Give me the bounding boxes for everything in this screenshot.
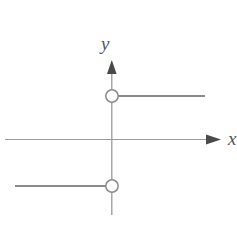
upper-open-circle-marker [106, 90, 118, 102]
lower-open-circle-marker [106, 180, 118, 192]
x-axis-label: x [228, 129, 236, 148]
math-figure-step-function: y x [0, 0, 237, 229]
x-axis-arrowhead [206, 135, 221, 145]
coordinate-plane-svg [0, 0, 237, 229]
y-axis-label: y [101, 34, 109, 53]
y-axis-arrowhead [107, 60, 117, 74]
